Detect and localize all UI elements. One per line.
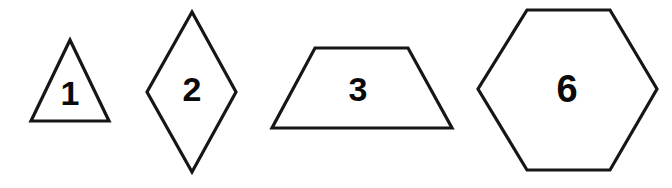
shape-group-diamond[interactable]: 2 [147, 12, 236, 172]
triangle-label: 1 [61, 74, 80, 112]
shapes-canvas: 1 2 3 6 [0, 0, 672, 188]
hexagon-label: 6 [556, 68, 577, 110]
trapezoid-label: 3 [349, 70, 368, 108]
shape-group-hexagon[interactable]: 6 [478, 10, 657, 170]
shape-group-triangle[interactable]: 1 [31, 40, 109, 121]
shapes-figure: 1 2 3 6 [0, 0, 672, 188]
shape-group-trapezoid[interactable]: 3 [272, 48, 452, 128]
diamond-label: 2 [183, 70, 202, 108]
